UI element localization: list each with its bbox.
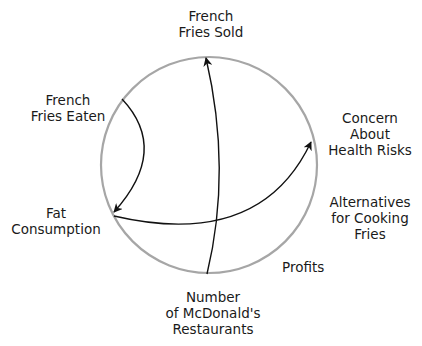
label-line: for Cooking — [320, 210, 420, 226]
label-line: French — [166, 8, 256, 24]
node-alternatives-cooking-fries: Alternatives for Cooking Fries — [320, 194, 420, 242]
label-line: Restaurants — [148, 321, 278, 337]
label-line: Fries Sold — [166, 24, 256, 40]
edge-fries-eaten-to-fat — [114, 99, 144, 212]
node-french-fries-eaten: French Fries Eaten — [18, 92, 118, 124]
label-line: Alternatives — [320, 194, 420, 210]
node-mcdonalds-restaurants: Number of McDonald's Restaurants — [148, 289, 278, 337]
label-line: Fries Eaten — [18, 108, 118, 124]
label-line: French — [18, 92, 118, 108]
label-line: Profits — [282, 259, 342, 275]
label-line: Fries — [320, 226, 420, 242]
node-profits: Profits — [282, 259, 342, 275]
node-fat-consumption: Fat Consumption — [6, 205, 106, 237]
label-line: Number — [148, 289, 278, 305]
label-line: About — [320, 126, 420, 142]
edge-mcdonalds-to-fries-sold — [206, 58, 219, 274]
label-line: of McDonald's — [148, 305, 278, 321]
label-line: Consumption — [6, 221, 106, 237]
node-concern-health-risks: Concern About Health Risks — [320, 110, 420, 158]
label-line: Concern — [320, 110, 420, 126]
outer-circle — [101, 57, 317, 273]
label-line: Health Risks — [320, 142, 420, 158]
label-line: Fat — [6, 205, 106, 221]
node-french-fries-sold: French Fries Sold — [166, 8, 256, 40]
